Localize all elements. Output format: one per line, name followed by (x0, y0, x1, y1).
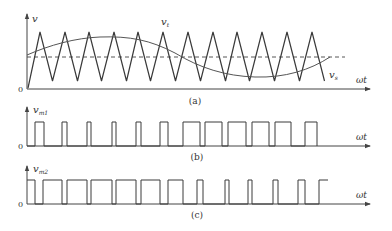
panel-b-origin-label: 0 (18, 142, 23, 151)
panel-b-x-label: ωt (356, 132, 367, 142)
panel-b-y-label: vm1 (33, 104, 48, 116)
panel-c-x-label: ωt (356, 190, 367, 200)
carrier-label: vt (161, 16, 170, 28)
panel-a-origin-label: 0 (18, 85, 23, 94)
vm2-pulse-train (27, 180, 328, 204)
vm1-pulse-train (27, 122, 317, 146)
panel-c-origin-label: 0 (18, 200, 23, 209)
panel-b-caption: (b) (191, 152, 204, 162)
panel-a-y-label: v (32, 13, 38, 24)
modulating-label: vs (329, 69, 338, 81)
panel-a-caption: (a) (189, 96, 201, 106)
panel-a: v 0 vt vs ωt (a) (18, 13, 370, 106)
panel-b: vm1 0 ωt (b) (18, 104, 370, 162)
panel-c-y-label: vm2 (33, 163, 48, 175)
panel-c-caption: (c) (191, 210, 203, 220)
pwm-waveform-diagram: v 0 vt vs ωt (a) vm1 0 ωt (b) vm2 0 ωt (… (0, 0, 392, 231)
panel-c: vm2 0 ωt (c) (18, 163, 370, 220)
panel-a-x-label: ωt (356, 75, 367, 85)
